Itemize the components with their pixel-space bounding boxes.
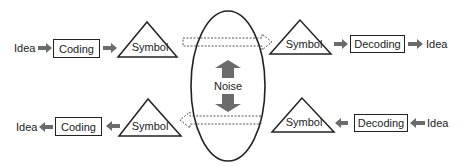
- noise-label: Noise: [214, 81, 242, 92]
- arrow-left-icon: [335, 118, 348, 128]
- noise-up-arrow-icon: [215, 60, 241, 78]
- communication-diagram: Idea Coding Symbol Symbol Decoding Idea …: [0, 0, 464, 168]
- arrow-left-icon: [106, 121, 120, 131]
- arrow-right-icon: [334, 39, 348, 49]
- bottom-right-symbol-label: Symbol: [286, 117, 323, 128]
- top-source-idea-label: Idea: [14, 43, 35, 54]
- arrow-left-icon: [410, 118, 425, 128]
- bottom-coding-box: Coding: [55, 117, 102, 136]
- top-right-symbol-label: Symbol: [286, 39, 323, 50]
- bottom-decoding-box: Decoding: [354, 114, 408, 132]
- arrow-left-icon: [39, 122, 53, 132]
- top-left-symbol-label: Symbol: [132, 42, 169, 53]
- arrow-right-icon: [408, 39, 423, 49]
- bottom-left-symbol-label: Symbol: [132, 121, 169, 132]
- arrow-right-icon: [38, 43, 52, 53]
- top-coding-box: Coding: [53, 39, 100, 58]
- bottom-source-idea-label: Idea: [427, 118, 448, 129]
- bottom-destination-idea-label: Idea: [16, 122, 37, 133]
- top-destination-idea-label: Idea: [426, 39, 447, 50]
- noise-down-arrow-icon: [215, 94, 241, 112]
- dashed-transmission-arrow-left-icon: [180, 112, 261, 128]
- arrow-right-icon: [103, 43, 117, 53]
- top-decoding-box: Decoding: [350, 35, 405, 53]
